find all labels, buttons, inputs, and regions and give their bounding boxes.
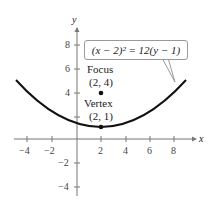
y-tick-label: −2 bbox=[58, 158, 69, 168]
x-tick-label: 2 bbox=[98, 146, 103, 156]
y-tick-label: 8 bbox=[65, 40, 70, 50]
y-tick-label: 6 bbox=[65, 64, 70, 74]
focus-coords: (2, 4) bbox=[89, 77, 113, 88]
callout-pointer bbox=[162, 58, 175, 82]
y-axis-arrow-icon bbox=[75, 27, 80, 32]
equation-callout: (x − 2)² = 12(y − 1) bbox=[84, 40, 188, 60]
x-axis-arrow-icon bbox=[192, 137, 197, 142]
x-tick-label: −2 bbox=[44, 146, 55, 156]
focus-title: Focus bbox=[87, 64, 113, 75]
vertex-title: Vertex bbox=[84, 98, 113, 109]
y-tick-label: −4 bbox=[58, 182, 69, 192]
x-axis-label: x bbox=[199, 133, 203, 144]
parabola-chart: (x − 2)² = 12(y − 1) y x Focus (2, 4) Ve… bbox=[0, 0, 208, 208]
y-axis-label: y bbox=[72, 14, 76, 25]
x-tick-label: 4 bbox=[123, 146, 128, 156]
vertex-coords: (2, 1) bbox=[89, 111, 113, 122]
x-tick-label: 6 bbox=[147, 146, 152, 156]
focus-point bbox=[99, 91, 104, 96]
x-tick-label: −4 bbox=[19, 146, 30, 156]
y-tick-label: 4 bbox=[65, 88, 70, 98]
vertex-point bbox=[99, 125, 104, 130]
x-tick-label: 8 bbox=[171, 146, 176, 156]
